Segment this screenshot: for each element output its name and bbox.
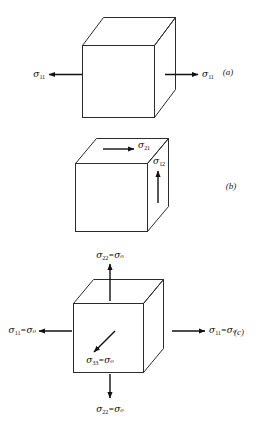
label-sigma-21-top-b: σ21: [138, 141, 150, 152]
sigma-subscript: 12: [159, 160, 165, 167]
sigma-subscript: 11: [39, 73, 45, 80]
label-sigma-11-right-a: σ11: [202, 70, 214, 81]
label-sigma-12-right-b: σ12: [153, 157, 165, 168]
panel-a-cube: [83, 18, 176, 118]
cube-a-top-face: [83, 18, 176, 46]
sigma-zero: σₒ: [26, 325, 36, 335]
panel-tag-b: (b): [226, 182, 237, 191]
sigma-subscript: 21: [144, 144, 150, 151]
panel-tag-a: (a): [223, 68, 234, 77]
sigma-subscript: 11: [215, 329, 221, 336]
panel-tag-c: (c): [234, 328, 244, 337]
panel-c-arrows: [39, 264, 205, 398]
sigma-zero: σₒ: [104, 355, 114, 365]
panel-b-arrows: [103, 149, 158, 203]
panel-b-cube: [76, 139, 169, 232]
cube-a-right-face: [155, 18, 176, 118]
sigma-subscript: 11: [208, 73, 214, 80]
sigma-zero: σₒ: [114, 250, 124, 260]
label-sigma-11-right-c: σ11=σₒ: [209, 326, 236, 337]
sigma-zero: σₒ: [114, 404, 124, 414]
sigma-subscript: 11: [15, 329, 21, 336]
arrow-sigma33-front: [94, 331, 115, 352]
label-sigma-22-top-c: σ22=σₒ: [96, 251, 124, 262]
stress-cube-diagram: [0, 0, 260, 432]
label-sigma-22-bottom-c: σ22=σₒ: [96, 405, 124, 416]
cube-a-front-face: [83, 46, 155, 118]
cube-b-front-face: [76, 164, 148, 232]
label-sigma-11-left-a: σ11: [33, 70, 45, 81]
label-sigma-11-left-c: σ11=σₒ: [9, 326, 36, 337]
cube-c-top-face: [74, 280, 164, 304]
cube-c-right-face: [144, 280, 164, 373]
figure-root: σ11 σ11 (a) σ21 σ12 (b) σ22=σₒ σ11=σₒ σ1…: [0, 0, 260, 432]
label-sigma-33-front-c: σ33=σₒ: [86, 356, 114, 367]
